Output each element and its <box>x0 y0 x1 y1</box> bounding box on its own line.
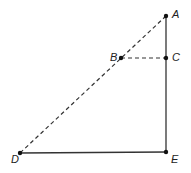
point-a <box>164 14 168 18</box>
label-b: B <box>110 51 117 63</box>
point-e <box>164 150 168 154</box>
segments <box>20 16 166 153</box>
geometry-diagram: A B C D E <box>0 0 191 173</box>
segment-a-d <box>20 16 166 153</box>
point-c <box>164 56 168 60</box>
diagram-svg: A B C D E <box>0 0 191 173</box>
label-e: E <box>171 153 179 165</box>
label-d: D <box>11 153 19 165</box>
segment-d-e <box>20 152 166 153</box>
point-b <box>119 56 123 60</box>
labels: A B C D E <box>11 8 180 165</box>
label-a: A <box>171 8 179 20</box>
label-c: C <box>172 51 180 63</box>
